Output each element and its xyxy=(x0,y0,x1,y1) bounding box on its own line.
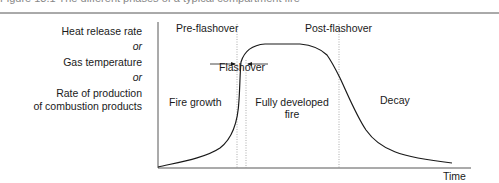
y-label-rate-production: Rate of production xyxy=(56,87,142,99)
decay-label: Decay xyxy=(380,94,411,106)
fully-developed-label: Fully developed xyxy=(255,96,329,108)
y-label-heat-release: Heat release rate xyxy=(61,25,142,37)
y-label-or-2: or xyxy=(133,71,143,83)
fully-developed-label-line2: fire xyxy=(285,108,300,120)
x-axis-label-time: Time xyxy=(443,170,466,182)
y-label-gas-temperature: Gas temperature xyxy=(63,56,142,68)
y-label-combustion-products: of combustion products xyxy=(33,100,142,112)
fire-growth-label: Fire growth xyxy=(169,96,222,108)
pre-flashover-label: Pre-flashover xyxy=(176,22,239,34)
post-flashover-label: Post-flashover xyxy=(305,22,373,34)
flashover-label: Flashover xyxy=(219,61,266,73)
y-label-or-1: or xyxy=(133,40,143,52)
fire-phases-diagram: Heat release rate or Gas temperature or … xyxy=(0,0,499,183)
